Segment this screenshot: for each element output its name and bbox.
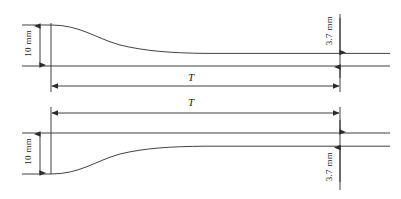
upper-length-label: T bbox=[188, 72, 194, 83]
taper-dimension-diagram: 10 mm 3.7 mm T T 10 mm 3.7 mm bbox=[0, 0, 401, 199]
upper-taper-panel bbox=[22, 14, 390, 92]
lower-right-height-label: 3.7 mm bbox=[325, 152, 334, 181]
diagram-canvas bbox=[0, 0, 401, 199]
upper-right-height-label: 3.7 mm bbox=[325, 16, 334, 45]
lower-profile-curve bbox=[51, 146, 390, 174]
upper-profile-curve bbox=[51, 25, 390, 53]
upper-left-height-label: 10 mm bbox=[24, 30, 33, 57]
lower-left-height-label: 10 mm bbox=[24, 138, 33, 165]
lower-taper-panel bbox=[22, 107, 390, 190]
lower-length-label: T bbox=[188, 97, 194, 108]
